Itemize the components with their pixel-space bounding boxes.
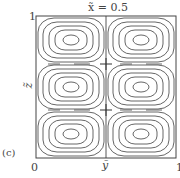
cell-mid-left [38,65,104,109]
stagnation-cross-lower [100,104,112,116]
cell-bottom-right [108,112,174,156]
cell-bottom-left [38,112,104,156]
stagnation-cross-upper [100,58,112,70]
cell-mid-right [108,65,174,109]
contour-plot [0,0,180,178]
cell-top-right [108,18,174,62]
cell-top-left [38,18,104,62]
